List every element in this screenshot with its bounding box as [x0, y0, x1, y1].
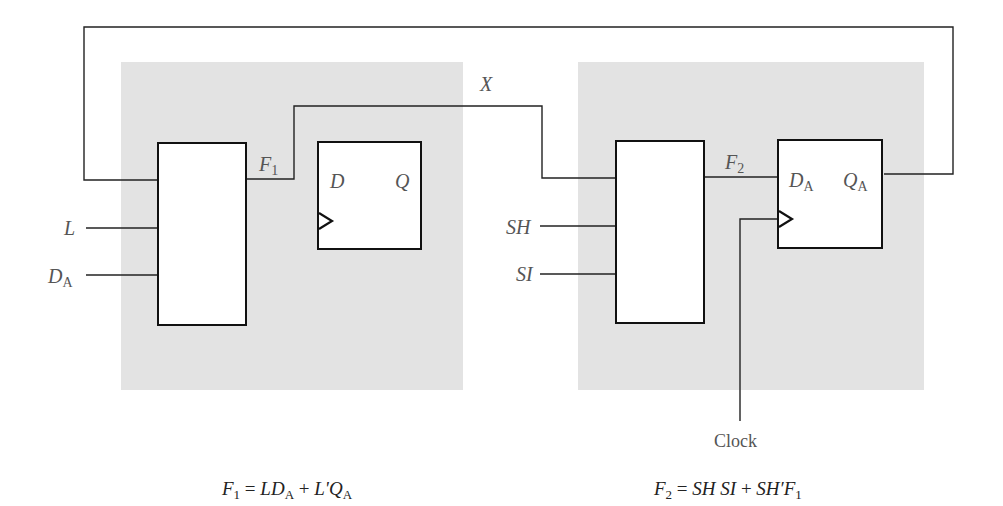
- right-clock-triangle-icon: [779, 211, 792, 227]
- left-clock-triangle-icon: [319, 213, 332, 229]
- label-f2: F2: [725, 152, 744, 176]
- input-label-si: SI: [516, 264, 533, 284]
- wire-f1-x: [247, 106, 615, 179]
- wiring: [0, 0, 1003, 506]
- label-x: X: [480, 74, 492, 94]
- clock-label: Clock: [714, 432, 757, 450]
- equation-f1: F1 = LDA + L'QA: [222, 479, 352, 501]
- input-label-l: L: [64, 218, 75, 238]
- feedback-wire-qa: [84, 27, 953, 180]
- right-ff-da-label: DA: [789, 170, 814, 194]
- wire-clock: [740, 219, 777, 421]
- label-f1: F1: [259, 154, 278, 178]
- left-ff-d-label: D: [330, 171, 344, 191]
- input-label-da: DA: [48, 266, 73, 290]
- right-ff-qa-label: QA: [843, 170, 868, 194]
- equation-f2: F2 = SH SI + SH′F1: [654, 479, 802, 501]
- input-label-sh: SH: [506, 217, 530, 237]
- left-ff-q-label: Q: [395, 171, 409, 191]
